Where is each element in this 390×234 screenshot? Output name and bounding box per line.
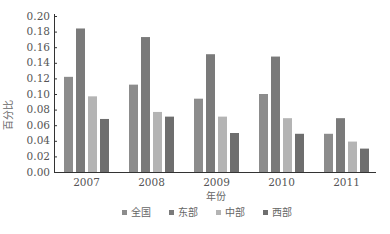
x-tick-label: 2010 [268,176,295,188]
legend-item: 东部 [169,206,198,218]
bar-2007-1 [76,28,85,172]
y-tick-label: 0.14 [27,56,51,68]
bar-2007-2 [88,96,97,172]
bar-2009-1 [206,54,215,172]
legend-item: 全国 [122,206,151,218]
bars [64,28,369,172]
legend: 全国东部中部西部 [122,206,292,218]
legend-label: 全国 [131,206,151,218]
legend-swatch-icon [216,210,221,215]
bar-2008-2 [153,112,162,172]
y-axis-title: 百分比 [3,100,14,130]
bar-2010-0 [259,94,268,172]
x-axis-title: 年份 [206,190,226,202]
x-axis-ticks: 20072008200920102011 [73,176,360,188]
bar-2010-1 [271,57,280,172]
bar-2008-1 [141,37,150,172]
bar-2011-2 [348,142,357,172]
bar-2009-2 [218,117,227,172]
bar-2008-3 [165,117,174,172]
x-tick-label: 2007 [73,176,100,188]
y-axis-ticks: 0.000.020.040.060.080.100.120.140.160.18… [27,10,57,178]
legend-swatch-icon [263,210,268,215]
y-tick-label: 0.00 [27,166,50,178]
bar-2011-3 [360,149,369,172]
legend-item: 中部 [216,206,245,218]
legend-swatch-icon [122,210,127,215]
y-tick-label: 0.04 [27,134,51,146]
legend-label: 东部 [178,206,198,218]
bar-2009-0 [194,99,203,172]
x-tick-label: 2011 [333,176,360,188]
bar-chart: 0.000.020.040.060.080.100.120.140.160.18… [0,0,390,234]
bar-2008-0 [129,85,138,172]
y-tick-label: 0.08 [27,103,50,115]
y-tick-label: 0.06 [27,119,51,131]
legend-label: 中部 [225,206,245,218]
y-tick-label: 0.20 [27,10,50,22]
bar-2010-3 [295,134,304,172]
bar-2009-3 [230,133,239,172]
y-tick-label: 0.16 [27,41,51,53]
legend-item: 西部 [263,206,292,218]
y-tick-label: 0.02 [27,150,50,162]
y-tick-label: 0.12 [27,72,50,84]
bar-2007-3 [100,119,109,172]
bar-2010-2 [283,118,292,172]
x-tick-label: 2009 [203,176,230,188]
y-tick-label: 0.18 [27,25,50,37]
bar-2007-0 [64,77,73,172]
bar-2011-0 [324,134,333,172]
x-tick-label: 2008 [138,176,165,188]
legend-label: 西部 [272,206,292,218]
y-tick-label: 0.10 [27,88,50,100]
bar-2011-1 [336,118,345,172]
legend-swatch-icon [169,210,174,215]
